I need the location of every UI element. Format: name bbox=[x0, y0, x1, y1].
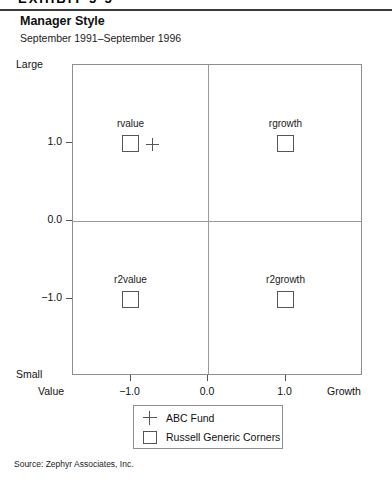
x-axis-tick bbox=[285, 375, 286, 381]
x-axis-tick bbox=[207, 375, 208, 381]
page-subtitle: September 1991–September 1996 bbox=[20, 32, 181, 44]
legend-item-abc-fund: ABC Fund bbox=[143, 409, 214, 427]
page-title: Manager Style bbox=[20, 14, 105, 28]
scatter-plot-area: rvaluergrowthr2valuer2growth bbox=[72, 64, 362, 375]
horizontal-zero-gridline bbox=[73, 221, 361, 222]
x-axis-low-label: Value bbox=[38, 385, 64, 397]
x-axis-high-label: Growth bbox=[327, 385, 361, 397]
corner-marker-label: rgrowth bbox=[269, 118, 302, 129]
y-axis-tick-label: −1.0 bbox=[2, 291, 62, 303]
corner-marker-label: rvalue bbox=[117, 118, 144, 129]
corner-marker-rvalue bbox=[122, 135, 139, 152]
vertical-zero-gridline bbox=[208, 65, 209, 374]
source-note: Source: Zephyr Associates, Inc. bbox=[14, 459, 134, 469]
legend-item-label: Russell Generic Corners bbox=[166, 431, 280, 443]
corner-marker-r2value bbox=[122, 291, 139, 308]
exhibit-number-strip: EXHIBIT 5-5 bbox=[0, 0, 392, 9]
corner-marker-rgrowth bbox=[277, 135, 294, 152]
legend-item-russell-generic-corners: Russell Generic Corners bbox=[143, 428, 280, 446]
y-axis-tick-label: 1.0 bbox=[2, 135, 62, 147]
exhibit-number: EXHIBIT 5-5 bbox=[18, 0, 114, 6]
header-divider bbox=[0, 9, 392, 11]
abc-fund-plus-marker bbox=[146, 138, 159, 151]
corner-marker-label: r2value bbox=[114, 274, 147, 285]
corner-marker-r2growth bbox=[277, 291, 294, 308]
square-marker-icon bbox=[143, 431, 157, 444]
x-axis-tick-label: 1.0 bbox=[277, 385, 292, 397]
x-axis-tick bbox=[130, 375, 131, 381]
y-axis-tick-label: 0.0 bbox=[2, 213, 62, 225]
x-axis-tick-label: 0.0 bbox=[200, 385, 215, 397]
y-axis-low-label: Small bbox=[16, 368, 42, 380]
legend-item-label: ABC Fund bbox=[166, 412, 214, 424]
corner-marker-label: r2growth bbox=[266, 274, 305, 285]
chart-legend: ABC Fund Russell Generic Corners bbox=[133, 405, 283, 449]
y-axis-high-label: Large bbox=[16, 58, 43, 70]
x-axis-tick-label: −1.0 bbox=[119, 385, 140, 397]
plus-marker-icon bbox=[143, 411, 157, 425]
